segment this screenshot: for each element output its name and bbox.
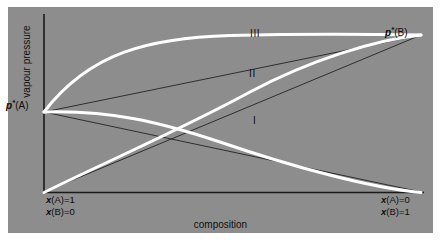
right-endpoint-line-1: x(A)=0 [381,194,410,206]
left-endpoint-line-1: x(A)=1 [46,194,75,206]
curve-label-two: II [249,68,256,79]
right-endpoint-line-2: x(B)=1 [381,206,410,218]
x-axis-left-endpoint-labels: x(A)=1 x(B)=0 [46,194,75,217]
x-axis-title: composition [0,219,441,230]
p-paren-b: (B) [394,27,407,38]
raoult-line-component-a [44,112,421,192]
curve-label-one: I [253,115,256,126]
left-endpoint-line-2: x(B)=0 [46,206,75,218]
x-axis-right-endpoint-labels: x(A)=0 x(B)=1 [381,194,410,217]
y-tick-label-p-star-b: p*(B) [385,25,408,38]
x-rest-left-2: (B)=0 [51,206,75,217]
curve-label-three: III [250,28,260,39]
x-rest-right-1: (A)=0 [386,194,410,205]
p-paren-a: (A) [15,100,28,111]
vapour-pressure-composition-figure: vapour pressure composition p*(A) p*(B) … [0,0,441,241]
x-rest-right-2: (B)=1 [386,206,410,217]
y-tick-label-p-star-a: p*(A) [6,98,29,111]
y-axis-title: vapour pressure [21,14,32,110]
x-rest-left-1: (A)=1 [51,194,75,205]
